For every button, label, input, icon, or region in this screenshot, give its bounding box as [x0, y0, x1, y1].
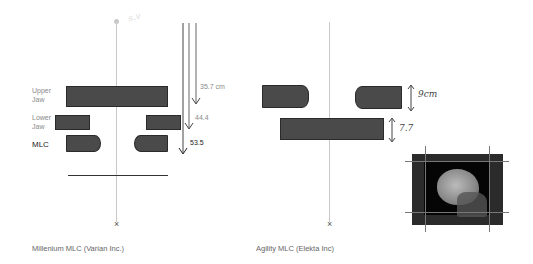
- crop-line: [405, 212, 509, 213]
- mlc-leaf-right: [355, 86, 402, 109]
- beam-central-axis: [116, 22, 117, 222]
- isocenter-mark: ×: [114, 220, 119, 229]
- millenium-caption: Millenium MLC (Varian Inc.): [32, 244, 124, 253]
- agility-caption: Agility MLC (Elekta Inc): [256, 244, 334, 253]
- mlc-leaf-right: [134, 135, 168, 152]
- jaw: [280, 118, 384, 140]
- jaw-thickness-arrow: [387, 117, 397, 143]
- crop-line: [405, 161, 509, 162]
- mlc-thickness-label: 9cm: [418, 89, 437, 99]
- upper-jaw: [66, 86, 168, 107]
- lower-jaw-left: [55, 115, 90, 130]
- lower-distance-label: 44.4: [195, 113, 209, 122]
- jaw-thickness-label: 7.7: [399, 123, 413, 133]
- isocenter-plane-line: [68, 175, 168, 176]
- mlc-distance-label: 53.5: [190, 138, 204, 147]
- crop-line: [489, 146, 490, 232]
- mlc-thickness-arrow: [406, 84, 416, 112]
- isocenter-mark: ×: [327, 220, 332, 229]
- mlc-leaf-left: [66, 135, 101, 152]
- mlc-leaf-left: [262, 85, 309, 108]
- handwritten-note: s.v: [127, 11, 142, 24]
- lower-jaw-label: Lower Jaw: [32, 113, 51, 131]
- upper-jaw-label: Upper Jaw: [32, 86, 51, 104]
- crop-line: [425, 146, 426, 232]
- upper-distance-label: 35.7 cm: [200, 82, 225, 91]
- mlc-label: MLC: [32, 140, 49, 149]
